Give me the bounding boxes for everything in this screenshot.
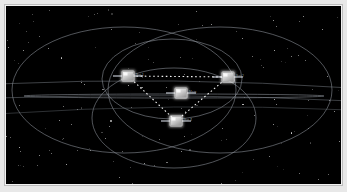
satellite-icon[interactable] [170,116,183,127]
orbit-ellipse-orbit-outer-left [12,27,236,153]
satellite-label-sat2: Sat 2 [236,74,244,78]
orbit-ellipse-orbit-outer-right [108,27,332,153]
link-sat1-sat3 [128,76,176,121]
satellite-label-main: Main [189,90,196,94]
orbit-paths [12,27,332,168]
satellite-icon[interactable] [222,72,235,83]
orbit-overlay [6,6,341,184]
viewport-frame: MainSat 1Sat 2Sat 3 [6,6,341,184]
satellite-label-sat1: Sat 1 [136,73,144,77]
satellite-icon[interactable] [175,88,188,99]
satellite-icon[interactable] [122,71,135,82]
orbital-scene[interactable]: MainSat 1Sat 2Sat 3 [6,6,341,184]
link-sat2-sat3 [176,77,228,121]
satellite-label-sat3: Sat 3 [184,118,192,122]
app-root: MainSat 1Sat 2Sat 3 [0,0,347,192]
intersatellite-links [128,76,228,121]
